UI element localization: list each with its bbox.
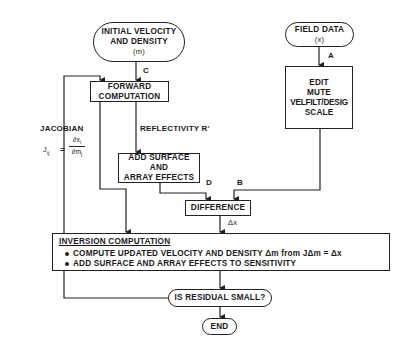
edit-node: EDIT MUTE VELFILT/DESIG SCALE bbox=[285, 66, 353, 129]
forward-computation-node: FORWARD COMPUTATION bbox=[90, 81, 169, 102]
field-data-node: FIELD DATA (x) bbox=[285, 22, 354, 47]
edge-label-b: B bbox=[237, 178, 243, 187]
add-surface-line1: ADD SURFACE bbox=[128, 153, 189, 163]
difference-node: DIFFERENCE bbox=[185, 200, 251, 216]
edge-label-c: C bbox=[143, 66, 149, 75]
residual-label: IS RESIDUAL SMALL? bbox=[175, 293, 266, 303]
end-node: END bbox=[202, 318, 237, 335]
forward-line1: FORWARD bbox=[108, 82, 152, 92]
initial-line1: INITIAL VELOCITY bbox=[102, 27, 177, 37]
inversion-bullet-2: ADD SURFACE AND ARRAY EFFECTS TO SENSITI… bbox=[59, 259, 296, 269]
add-surface-line2: AND bbox=[150, 163, 168, 173]
field-data-line2: (x) bbox=[315, 35, 324, 45]
initial-line2: AND DENSITY bbox=[110, 37, 168, 47]
inversion-computation-node: INVERSION COMPUTATION COMPUTE UPDATED VE… bbox=[52, 233, 390, 271]
field-data-line1: FIELD DATA bbox=[295, 25, 344, 35]
forward-line2: COMPUTATION bbox=[99, 92, 161, 102]
jacobian-equals: = bbox=[60, 145, 65, 154]
edit-line3: VELFILT/DESIG bbox=[290, 98, 348, 108]
add-surface-array-node: ADD SURFACE AND ARRAY EFFECTS bbox=[118, 153, 200, 183]
edge-label-reflectivity: REFLECTIVITY R' bbox=[140, 124, 210, 133]
inversion-title: INVERSION COMPUTATION bbox=[59, 237, 170, 247]
inversion-bullet-1: COMPUTE UPDATED VELOCITY AND DENSITY Δm … bbox=[59, 249, 342, 259]
end-label: END bbox=[211, 322, 229, 332]
jacobian-title: JACOBIAN bbox=[40, 124, 83, 133]
edit-line1: EDIT bbox=[309, 78, 328, 88]
edge-label-d: D bbox=[206, 178, 212, 187]
add-surface-line3: ARRAY EFFECTS bbox=[124, 173, 194, 183]
edit-line4: SCALE bbox=[305, 108, 334, 118]
edge-label-delta-x: Δx bbox=[228, 218, 237, 227]
edit-line2: MUTE bbox=[307, 88, 331, 98]
jacobian-fraction: ∂xi ∂mj bbox=[69, 136, 85, 158]
jacobian-lhs: Jij bbox=[43, 145, 50, 156]
initial-line3: (m) bbox=[133, 47, 145, 57]
is-residual-small-node: IS RESIDUAL SMALL? bbox=[168, 289, 272, 307]
edge-label-a: A bbox=[328, 51, 334, 60]
difference-label: DIFFERENCE bbox=[191, 203, 245, 213]
initial-velocity-density-node: INITIAL VELOCITY AND DENSITY (m) bbox=[93, 22, 185, 62]
